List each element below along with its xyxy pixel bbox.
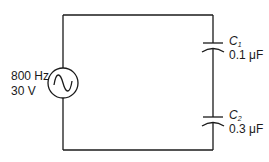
wires	[63, 15, 213, 150]
source-voltage-label: 30 V	[11, 84, 36, 98]
circuit-diagram: 800 Hz 30 V C1 0.1 μF C2 0.3 μF	[0, 0, 269, 162]
capacitor-c2-value: 0.3 μF	[229, 122, 263, 136]
capacitor-c2-name: C2	[229, 108, 242, 122]
capacitor-c1-value: 0.1 μF	[229, 48, 263, 62]
ac-source	[48, 68, 78, 98]
source-frequency-label: 800 Hz	[11, 69, 49, 83]
capacitor-c1-name: C1	[229, 34, 242, 48]
